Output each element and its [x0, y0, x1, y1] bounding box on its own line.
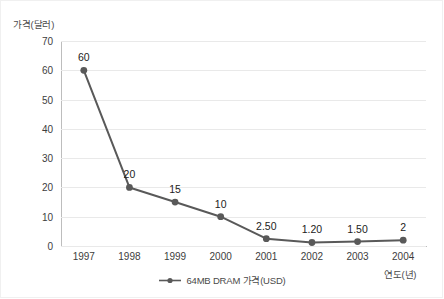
- x-axis-tick-labels: 19971998199920002001200220032004: [61, 251, 427, 267]
- data-point-marker: [80, 67, 87, 74]
- y-axis-tick-labels: 010203040506070: [23, 41, 53, 246]
- series-polyline: [84, 70, 403, 242]
- data-point-marker: [172, 199, 179, 206]
- x-tick-label: 2004: [380, 251, 426, 262]
- data-point-marker: [126, 184, 133, 191]
- y-tick-label: 50: [27, 94, 53, 105]
- y-axis-title: 가격(달러): [13, 17, 54, 31]
- series-line-64mb-dram: [61, 41, 426, 246]
- data-point-label: 1.50: [347, 223, 367, 235]
- chart-container: 가격(달러) 010203040506070 602015102.501.201…: [0, 0, 443, 298]
- y-tick-label: 60: [27, 65, 53, 76]
- data-point-label: 20: [124, 168, 136, 180]
- legend-label: 64MB DRAM 가격(USD): [186, 273, 285, 287]
- data-point-label: 60: [78, 51, 90, 63]
- y-tick-label: 30: [27, 153, 53, 164]
- x-tick-label: 2000: [198, 251, 244, 262]
- data-point-marker: [217, 213, 224, 220]
- x-tick-label: 1997: [61, 251, 107, 262]
- gridline: [61, 246, 426, 247]
- y-tick-label: 40: [27, 123, 53, 134]
- data-point-marker: [309, 239, 316, 246]
- data-point-label: 2.50: [256, 220, 276, 232]
- data-point-marker: [354, 238, 361, 245]
- y-tick-label: 0: [27, 241, 53, 252]
- x-tick-label: 2002: [289, 251, 335, 262]
- data-point-label: 2: [400, 221, 406, 233]
- y-tick-label: 70: [27, 36, 53, 47]
- legend-item-64mb-dram: 64MB DRAM 가격(USD): [159, 273, 285, 287]
- data-point-label: 15: [169, 183, 181, 195]
- x-tick-label: 2001: [243, 251, 289, 262]
- y-tick-label: 10: [27, 211, 53, 222]
- line-marker-icon: [159, 276, 181, 285]
- data-point-label: 1.20: [302, 223, 322, 235]
- x-tick-label: 1999: [152, 251, 198, 262]
- data-point-label: 10: [215, 198, 227, 210]
- plot-area: 602015102.501.201.502: [61, 41, 426, 246]
- y-tick-label: 20: [27, 182, 53, 193]
- x-tick-label: 2003: [335, 251, 381, 262]
- data-point-marker: [400, 237, 407, 244]
- data-point-marker: [263, 235, 270, 242]
- chart-legend: 64MB DRAM 가격(USD): [1, 273, 444, 287]
- x-tick-label: 1998: [106, 251, 152, 262]
